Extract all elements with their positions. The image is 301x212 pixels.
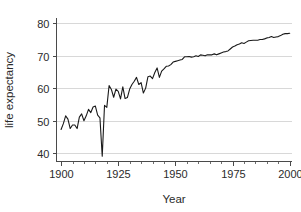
x-tick-label-1975: 1975 (221, 168, 245, 180)
y-tick-label-70: 70 (37, 51, 49, 63)
chart-background (0, 0, 301, 212)
x-tick-label-1900: 1900 (49, 168, 73, 180)
y-tick-label-80: 80 (37, 18, 49, 30)
x-tick-label-1950: 1950 (163, 168, 187, 180)
x-tick-label-2000: 2000 (278, 168, 301, 180)
life-expectancy-chart: 4050607080 19001925195019752000 Year lif… (0, 0, 301, 212)
y-tick-label-50: 50 (37, 116, 49, 128)
x-axis-title: Year (162, 193, 185, 205)
y-tick-label-40: 40 (37, 148, 49, 160)
chart-plot-area: 4050607080 19001925195019752000 Year lif… (0, 0, 301, 212)
y-axis-title: life expectancy (3, 52, 15, 128)
x-tick-label-1925: 1925 (106, 168, 130, 180)
y-tick-label-60: 60 (37, 83, 49, 95)
